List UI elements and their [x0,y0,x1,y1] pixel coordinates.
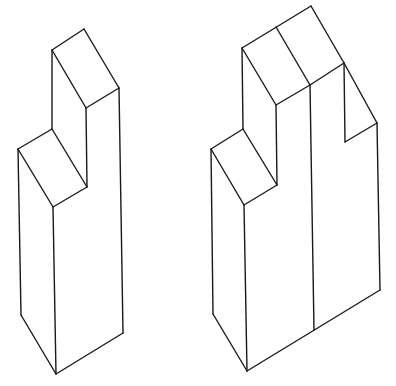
edge-line [310,85,314,330]
edge-line [276,27,310,85]
edge-line [311,6,344,63]
edge-line [211,149,244,205]
figure-svg [0,0,396,386]
edge-line [52,50,86,108]
edge-line [211,149,213,314]
edge-line [244,185,277,205]
edge-line [84,29,119,88]
edge-line [18,129,52,149]
edge-line [242,48,276,105]
edge-line [56,333,123,374]
edge-line [21,315,56,374]
edge-line [52,129,87,187]
edge-line [18,149,21,315]
edge-line [243,129,277,185]
edge-line [276,85,310,105]
edge-line [53,207,56,374]
edge-line [18,149,53,207]
left-stepped-block [18,29,123,374]
edge-line [119,88,123,333]
edge-line [211,129,243,149]
edge-line [344,63,377,123]
edge-line [242,48,243,129]
edge-line [310,63,344,85]
isometric-blocks-figure [0,0,396,386]
edge-line [244,205,247,371]
edge-line [86,88,119,108]
right-stepped-block [211,6,380,371]
edge-line [345,123,377,142]
edge-line [86,108,87,187]
edge-line [276,105,277,185]
edge-line [377,123,380,290]
edge-line [53,187,87,207]
edge-line [213,314,247,371]
edge-line [52,29,84,50]
edge-line [344,63,345,142]
